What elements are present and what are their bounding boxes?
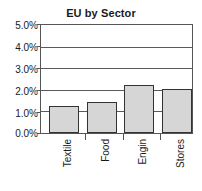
- bar-engin: [124, 85, 154, 133]
- gridline-3-percent: [41, 68, 192, 69]
- x-axis-label-text: Food: [101, 139, 111, 162]
- x-axis-label-food: Food: [101, 139, 111, 162]
- x-axis-tick-mark: [123, 134, 124, 140]
- bar-stores: [162, 89, 192, 133]
- x-axis-label-text: Stores: [176, 139, 186, 168]
- x-axis-tick-mark: [160, 134, 161, 140]
- bar-chart: EU by Sector 5.0% 4.0% 3.0% 2.0% 1.0% 0.…: [0, 0, 202, 191]
- x-axis-label-stores: Stores: [176, 139, 186, 168]
- y-axis-tick-label: 1.0%: [2, 109, 38, 119]
- bar-food: [87, 102, 117, 133]
- bar-textile: [49, 106, 79, 133]
- x-axis-label-engin: Engin: [138, 139, 148, 165]
- x-axis-label-textile: Textile: [63, 139, 73, 167]
- y-axis-tick-label: 2.0%: [2, 87, 38, 97]
- chart-title: EU by Sector: [0, 7, 202, 19]
- x-axis-label-text: Textile: [63, 139, 73, 167]
- plot-area: [40, 24, 193, 134]
- x-axis-label-text: Engin: [138, 139, 148, 165]
- y-axis-tick-label: 0.0%: [2, 129, 38, 139]
- gridline-4-percent: [41, 47, 192, 48]
- y-axis-tick-label: 3.0%: [2, 65, 38, 75]
- x-axis-tick-mark: [85, 134, 86, 140]
- y-axis-tick-label: 5.0%: [2, 21, 38, 31]
- y-axis-tick-label: 4.0%: [2, 43, 38, 53]
